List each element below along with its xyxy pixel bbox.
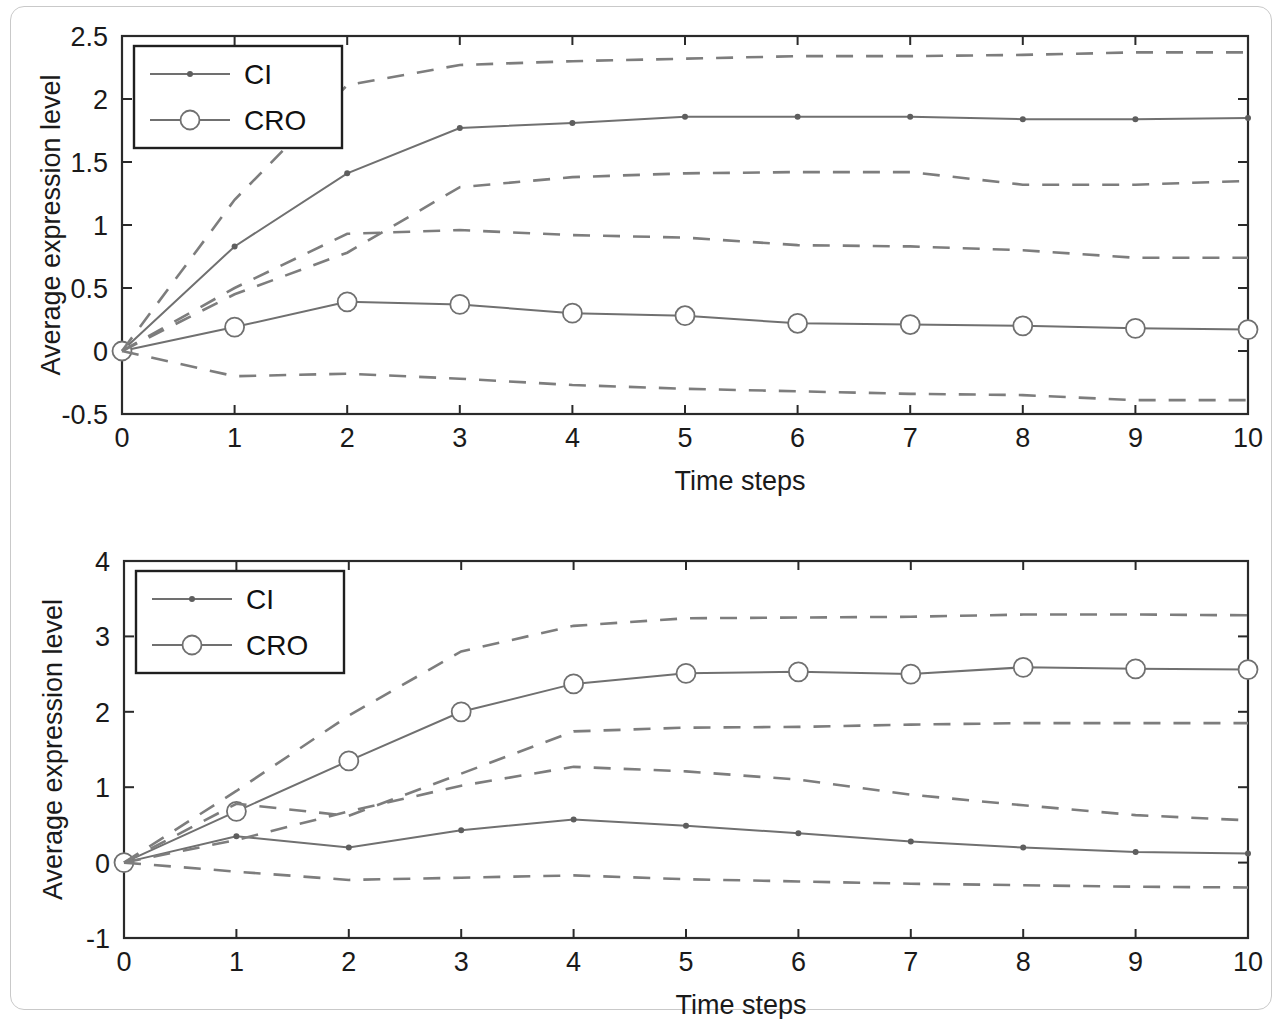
x-tick-label: 5 <box>678 947 693 977</box>
legend-marker-dot <box>187 71 193 77</box>
data-point-marker-circle <box>788 314 807 333</box>
series-line-ci-upper-band <box>124 767 1248 863</box>
data-point-marker-circle <box>676 306 695 325</box>
series-line-cro <box>124 667 1248 862</box>
data-point-marker-dot <box>458 827 464 833</box>
data-point-marker-circle <box>563 304 582 323</box>
data-point-marker-dot <box>1245 851 1251 857</box>
x-tick-label: 10 <box>1233 947 1263 977</box>
y-tick-label: 0 <box>93 337 108 367</box>
data-point-marker-dot <box>344 170 350 176</box>
data-point-marker-circle <box>338 292 357 311</box>
data-point-marker-dot <box>795 114 801 120</box>
y-tick-label: 0 <box>95 849 110 879</box>
x-tick-label: 6 <box>790 423 805 453</box>
data-point-marker-circle <box>1126 659 1145 678</box>
data-point-marker-dot <box>232 243 238 249</box>
y-tick-label: 4 <box>95 547 110 577</box>
data-point-marker-circle <box>1126 319 1145 338</box>
y-tick-label: 1 <box>93 211 108 241</box>
data-point-marker-circle <box>339 751 358 770</box>
series-line-cro-lower-band <box>122 351 1248 400</box>
x-tick-label: 0 <box>114 423 129 453</box>
data-point-marker-circle <box>1013 316 1032 335</box>
legend-box <box>134 46 342 148</box>
data-point-marker-dot <box>1133 849 1139 855</box>
x-axis-title: Time steps <box>674 466 805 496</box>
legend-label-ci: CI <box>246 584 274 615</box>
bottom-chart-panel: 012345678910-101234Time stepsAverage exp… <box>0 510 1284 1019</box>
x-axis-title: Time steps <box>675 990 806 1019</box>
data-point-marker-circle <box>452 702 471 721</box>
x-tick-label: 8 <box>1015 423 1030 453</box>
series-line-ci-lower-band <box>124 863 1248 888</box>
x-tick-label: 6 <box>791 947 806 977</box>
bottom-chart-svg: 012345678910-101234Time stepsAverage exp… <box>0 510 1284 1019</box>
data-point-marker-dot <box>1245 115 1251 121</box>
data-point-marker-circle <box>564 674 583 693</box>
legend-label-cro: CRO <box>244 105 306 136</box>
data-point-marker-circle <box>1014 658 1033 677</box>
y-tick-label: 0.5 <box>70 274 108 304</box>
data-point-marker-circle <box>1239 660 1258 679</box>
data-point-marker-circle <box>789 662 808 681</box>
legend-marker-dot <box>189 596 195 602</box>
data-point-marker-dot <box>346 845 352 851</box>
data-point-marker-circle <box>450 295 469 314</box>
y-tick-label: 2 <box>95 698 110 728</box>
x-tick-label: 1 <box>229 947 244 977</box>
top-chart-panel: 012345678910-0.500.511.522.5Time stepsAv… <box>0 0 1284 510</box>
data-point-marker-circle <box>901 665 920 684</box>
x-tick-label: 3 <box>452 423 467 453</box>
y-tick-label: 1 <box>95 773 110 803</box>
x-tick-label: 9 <box>1128 947 1143 977</box>
y-tick-label: 1.5 <box>70 148 108 178</box>
x-tick-label: 2 <box>341 947 356 977</box>
data-point-marker-dot <box>1020 116 1026 122</box>
legend-box <box>136 571 344 673</box>
legend-marker-circle <box>181 111 200 130</box>
x-tick-label: 2 <box>340 423 355 453</box>
legend-marker-circle <box>183 636 202 655</box>
data-point-marker-dot <box>569 120 575 126</box>
x-tick-label: 1 <box>227 423 242 453</box>
x-tick-label: 4 <box>565 423 580 453</box>
data-point-marker-dot <box>457 125 463 131</box>
x-tick-label: 10 <box>1233 423 1263 453</box>
data-point-marker-dot <box>795 830 801 836</box>
data-point-marker-dot <box>1020 845 1026 851</box>
data-point-marker-circle <box>225 318 244 337</box>
data-point-marker-circle <box>677 664 696 683</box>
x-tick-label: 3 <box>454 947 469 977</box>
x-tick-label: 7 <box>903 423 918 453</box>
x-tick-label: 4 <box>566 947 581 977</box>
series-line-cro-upper-band <box>122 230 1248 351</box>
data-point-marker-dot <box>907 114 913 120</box>
y-tick-label: -1 <box>86 924 110 954</box>
data-point-marker-dot <box>233 833 239 839</box>
x-tick-label: 8 <box>1016 947 1031 977</box>
y-axis-title: Average expression level <box>38 599 68 900</box>
data-point-marker-circle <box>1239 320 1258 339</box>
y-tick-label: -0.5 <box>61 400 108 430</box>
figure-page: 012345678910-0.500.511.522.5Time stepsAv… <box>0 0 1284 1019</box>
y-tick-label: 2 <box>93 85 108 115</box>
data-point-marker-dot <box>682 114 688 120</box>
data-point-marker-dot <box>1132 116 1138 122</box>
legend-label-cro: CRO <box>246 630 308 661</box>
data-point-marker-dot <box>571 817 577 823</box>
x-tick-label: 0 <box>116 947 131 977</box>
legend-label-ci: CI <box>244 59 272 90</box>
data-point-marker-dot <box>908 838 914 844</box>
top-chart-svg: 012345678910-0.500.511.522.5Time stepsAv… <box>0 0 1284 510</box>
x-tick-label: 9 <box>1128 423 1143 453</box>
x-tick-label: 5 <box>677 423 692 453</box>
data-point-marker-dot <box>683 823 689 829</box>
y-tick-label: 3 <box>95 622 110 652</box>
y-tick-label: 2.5 <box>70 22 108 52</box>
y-axis-title: Average expression level <box>36 74 66 375</box>
data-point-marker-circle <box>901 315 920 334</box>
x-tick-label: 7 <box>903 947 918 977</box>
